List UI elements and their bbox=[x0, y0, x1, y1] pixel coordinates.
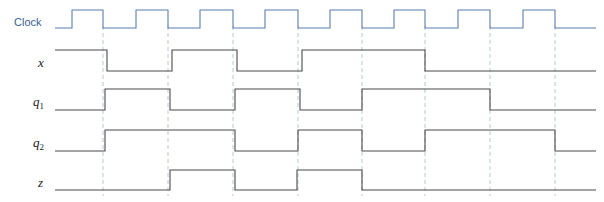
waveform-x bbox=[55, 50, 596, 71]
signal-label-q2-subscript: 2 bbox=[40, 142, 45, 152]
waveform-group bbox=[55, 10, 596, 190]
signal-label-q1-subscript: 1 bbox=[40, 101, 45, 111]
timing-diagram-canvas: Clock x q1 q2 z bbox=[0, 0, 604, 202]
signal-label-q2: q2 bbox=[33, 135, 44, 152]
waveform-q2 bbox=[55, 130, 596, 151]
signal-label-q1: q1 bbox=[33, 94, 44, 111]
signal-label-clock: Clock bbox=[14, 16, 42, 28]
timing-diagram: Clock x q1 q2 z bbox=[0, 0, 604, 202]
signal-label-x: x bbox=[37, 55, 44, 70]
waveform-q1 bbox=[55, 89, 596, 110]
waveform-z bbox=[55, 170, 596, 190]
signal-label-z: z bbox=[37, 175, 43, 190]
waveform-clock bbox=[55, 10, 596, 28]
